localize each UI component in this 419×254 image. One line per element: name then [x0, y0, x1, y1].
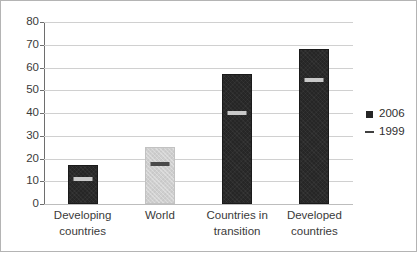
y-axis-tick-label: 50 — [5, 85, 39, 97]
bar-2006[interactable] — [145, 147, 175, 204]
category-line-2: transition — [199, 224, 276, 240]
y-axis-tick-label: 60 — [5, 62, 39, 74]
marker-1999 — [305, 78, 324, 82]
bar-2006[interactable] — [68, 165, 98, 204]
marker-1999 — [228, 111, 247, 115]
category-line-1: Developing — [44, 208, 121, 224]
category-line-1: Countries in — [199, 208, 276, 224]
bar-2006[interactable] — [222, 74, 252, 204]
y-axis-tick-label: 70 — [5, 39, 39, 51]
y-axis-tick-label: 0 — [5, 198, 39, 210]
y-axis-tick-label: 20 — [5, 153, 39, 165]
y-axis-labels: 80 70 60 50 40 30 20 10 0 — [1, 22, 39, 204]
bar-slot — [44, 22, 121, 204]
plot-area — [44, 22, 353, 204]
chart-legend: 2006 1999 — [363, 105, 417, 141]
category-line-2: countries — [44, 224, 121, 240]
x-axis-labels: Developing countries World Countries in … — [44, 208, 353, 250]
bar-slot — [276, 22, 353, 204]
square-marker-icon — [363, 111, 376, 118]
y-axis-tick-label: 30 — [5, 130, 39, 142]
legend-item-1999[interactable]: 1999 — [363, 123, 417, 141]
y-axis-tick-label: 80 — [5, 16, 39, 28]
chart-container: 80 70 60 50 40 30 20 10 0 — [0, 0, 417, 252]
marker-1999 — [73, 177, 92, 181]
category-line-1: Developed — [276, 208, 353, 224]
category-line-2: countries — [276, 224, 353, 240]
x-axis-category-label: World — [121, 208, 198, 224]
x-axis-category-label: Countries in transition — [199, 208, 276, 239]
x-axis-baseline — [44, 204, 353, 205]
legend-label: 2006 — [379, 108, 405, 120]
y-axis-tick-label: 10 — [5, 176, 39, 188]
x-axis-category-label: Developing countries — [44, 208, 121, 239]
legend-label: 1999 — [379, 126, 405, 138]
marker-1999 — [150, 162, 169, 166]
bar-slot — [121, 22, 198, 204]
dash-marker-icon — [363, 131, 376, 133]
legend-item-2006[interactable]: 2006 — [363, 105, 417, 123]
bar-slot — [199, 22, 276, 204]
y-axis-tick-label: 40 — [5, 107, 39, 119]
bar-2006[interactable] — [299, 49, 329, 204]
x-axis-category-label: Developed countries — [276, 208, 353, 239]
category-line-1: World — [121, 208, 198, 224]
